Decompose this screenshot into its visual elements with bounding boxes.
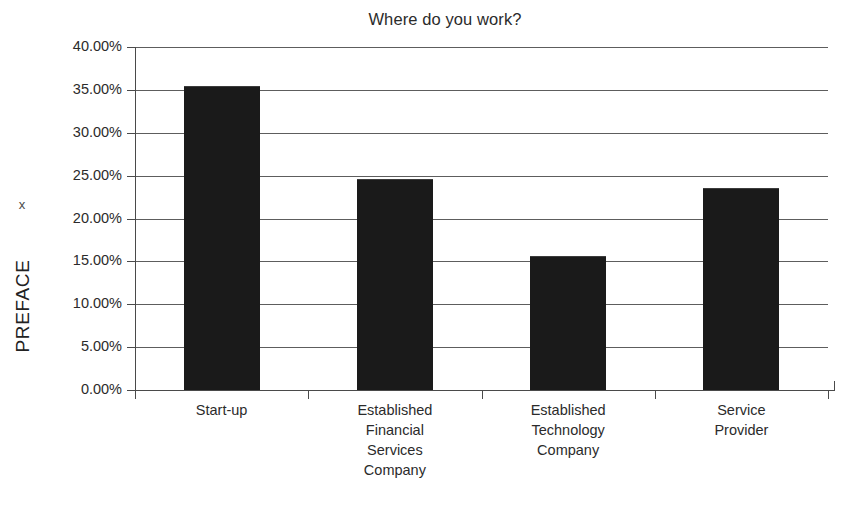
plot-area [135, 47, 828, 390]
x-axis-category-label: EstablishedTechnologyCompany [482, 400, 655, 460]
y-axis-tick-label: 0.00% [2, 381, 122, 397]
y-axis-tick [127, 219, 136, 220]
x-axis-end-tick [834, 381, 835, 391]
category-label-line: Start-up [135, 400, 308, 420]
y-axis-tick-label: 35.00% [2, 81, 122, 97]
bar[interactable] [703, 188, 779, 391]
bar[interactable] [357, 179, 433, 391]
category-label-line: Provider [655, 420, 828, 440]
x-axis-tick [308, 390, 309, 399]
category-label-line: Services [308, 440, 481, 460]
y-axis-tick-label: 25.00% [2, 167, 122, 183]
x-axis-category-label: Start-up [135, 400, 308, 420]
x-axis-category-label: ServiceProvider [655, 400, 828, 440]
y-axis-tick-label: 15.00% [2, 252, 122, 268]
y-axis-tick-label: 5.00% [2, 338, 122, 354]
category-label-line: Company [308, 460, 481, 480]
x-axis-line [135, 390, 835, 391]
y-axis-tick [127, 133, 136, 134]
category-label-line: Established [308, 400, 481, 420]
bar[interactable] [530, 256, 606, 391]
y-axis-tick [127, 261, 136, 262]
y-axis-tick [127, 347, 136, 348]
category-label-line: Technology [482, 420, 655, 440]
x-axis-tick [482, 390, 483, 399]
x-axis-tick [828, 390, 829, 399]
y-axis-tick [127, 304, 136, 305]
y-axis-tick-label: 40.00% [2, 38, 122, 54]
y-axis-tick-label: 30.00% [2, 124, 122, 140]
y-axis-tick [127, 90, 136, 91]
category-label-line: Financial [308, 420, 481, 440]
x-axis-category-label: EstablishedFinancialServicesCompany [308, 400, 481, 480]
chart-title: Where do you work? [240, 10, 650, 29]
bar-chart: Where do you work? x PREFACE 0.00%5.00%1… [0, 0, 853, 520]
y-axis-tick [127, 176, 136, 177]
y-axis-tick-label: 20.00% [2, 210, 122, 226]
category-label-line: Service [655, 400, 828, 420]
y-axis-tick-labels: 0.00%5.00%10.00%15.00%20.00%25.00%30.00%… [0, 0, 122, 520]
category-label-line: Established [482, 400, 655, 420]
gridline [135, 47, 828, 48]
x-axis-tick [135, 390, 136, 399]
category-label-line: Company [482, 440, 655, 460]
x-axis-tick [655, 390, 656, 399]
y-axis-tick [127, 47, 136, 48]
y-axis-tick-label: 10.00% [2, 295, 122, 311]
bar[interactable] [184, 86, 260, 391]
